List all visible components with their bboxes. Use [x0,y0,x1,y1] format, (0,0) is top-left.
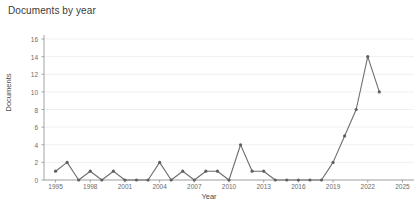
x-axis-label: Year [0,192,418,201]
x-tick-label: 2013 [249,183,279,190]
x-tick-label: 1998 [75,183,105,190]
line-chart-svg [0,0,418,210]
x-tick-label: 1995 [41,183,71,190]
y-axis-label: Documents [4,63,13,123]
y-tick-label: 16 [18,36,38,43]
x-tick-label: 2010 [214,183,244,190]
y-tick-label: 10 [18,88,38,95]
y-tick-label: 12 [18,71,38,78]
y-tick-label: 6 [18,124,38,131]
y-tick-label: 14 [18,53,38,60]
y-tick-label: 4 [18,141,38,148]
x-tick-label: 2019 [318,183,348,190]
plot-area: 0246810121416 19951998200120042007201020… [0,0,418,210]
chart-container: Documents by year 0246810121416 19951998… [0,0,418,210]
y-tick-label: 2 [18,159,38,166]
x-tick-label: 2022 [353,183,383,190]
x-tick-label: 2001 [110,183,140,190]
x-tick-label: 2016 [283,183,313,190]
x-tick-label: 2004 [145,183,175,190]
y-axis-ticks: 0246810121416 [10,0,38,210]
y-tick-label: 8 [18,106,38,113]
x-tick-label: 2025 [387,183,417,190]
x-tick-label: 2007 [179,183,209,190]
